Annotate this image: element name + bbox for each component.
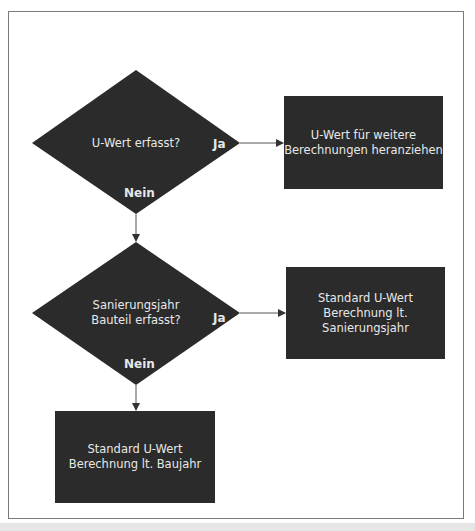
process-3-line-2: Berechnung lt. Baujahr [69, 457, 201, 472]
decision-2-yes-label: Ja [213, 311, 226, 325]
decision-2-line-1: Sanierungsjahr [93, 298, 180, 313]
decision-1-yes-label: Ja [213, 137, 226, 151]
process-2-line-2: Berechnung lt. [323, 306, 407, 321]
process-3-text: Standard U-Wert Berechnung lt. Baujahr [55, 411, 215, 503]
decision-1-text: U-Wert erfasst? [70, 134, 202, 152]
decision-1-no-label: Nein [124, 186, 155, 200]
process-1-text: U-Wert für weitere Berechnungen heranzie… [284, 96, 443, 189]
decision-2-text: Sanierungsjahr Bauteil erfasst? [70, 296, 202, 330]
decision-2-line-2: Bauteil erfasst? [91, 313, 180, 328]
process-3-line-1: Standard U-Wert [87, 442, 182, 457]
process-2-line-3: Sanierungsjahr [322, 321, 409, 336]
process-1-line-1: U-Wert für weitere [311, 128, 416, 143]
process-2-line-1: Standard U-Wert [318, 291, 413, 306]
process-2-text: Standard U-Wert Berechnung lt. Sanierung… [286, 267, 445, 359]
decision-2-no-label: Nein [124, 357, 155, 371]
decision-1-line-1: U-Wert erfasst? [92, 136, 180, 151]
process-1-line-2: Berechnungen heranziehen [284, 143, 443, 158]
